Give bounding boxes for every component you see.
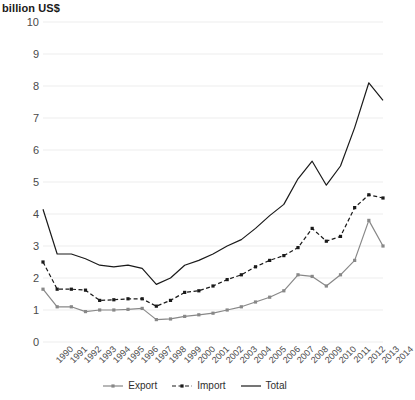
data-point-marker [169, 317, 172, 320]
data-point-marker [197, 289, 200, 292]
data-point-marker [155, 318, 158, 321]
data-point-marker [282, 254, 285, 257]
line-marker-gray-icon [102, 381, 124, 391]
line-dashed-black-icon [171, 381, 193, 391]
data-point-marker [296, 246, 299, 249]
y-axis-title: billion US$ [2, 2, 60, 14]
series-line-total [43, 83, 383, 285]
data-point-marker [197, 313, 200, 316]
y-tick-label: 5 [5, 176, 39, 188]
data-point-marker [126, 297, 129, 300]
x-axis-tick-labels: 1990199119921993199419951996199719981999… [43, 344, 383, 384]
y-tick-label: 1 [5, 304, 39, 316]
data-point-marker [367, 219, 370, 222]
data-point-marker [339, 273, 342, 276]
data-point-marker [226, 278, 229, 281]
plot-area [43, 22, 383, 342]
data-point-marker [254, 265, 257, 268]
data-point-marker [84, 289, 87, 292]
y-tick-label: 3 [5, 240, 39, 252]
data-point-marker [296, 273, 299, 276]
data-point-marker [98, 308, 101, 311]
data-point-marker [311, 275, 314, 278]
data-point-marker [183, 315, 186, 318]
data-point-marker [70, 305, 73, 308]
data-point-marker [367, 193, 370, 196]
data-point-marker [381, 196, 384, 199]
data-point-marker [98, 299, 101, 302]
y-tick-label: 6 [5, 144, 39, 156]
data-point-marker [70, 288, 73, 291]
data-point-marker [339, 235, 342, 238]
legend-label: Import [197, 381, 225, 391]
legend-item-total[interactable]: Total [240, 381, 287, 391]
y-tick-label: 9 [5, 48, 39, 60]
data-point-marker [112, 298, 115, 301]
data-point-marker [240, 273, 243, 276]
y-axis-tick-labels: 012345678910 [0, 22, 39, 342]
data-point-marker [254, 300, 257, 303]
data-point-marker [353, 259, 356, 262]
data-point-marker [155, 305, 158, 308]
y-tick-label: 8 [5, 80, 39, 92]
y-tick-label: 10 [5, 16, 39, 28]
data-point-marker [56, 288, 59, 291]
legend-item-export[interactable]: Export [102, 381, 157, 391]
data-point-marker [282, 289, 285, 292]
series-line-export [43, 220, 383, 319]
data-point-marker [169, 299, 172, 302]
chart-legend: ExportImportTotal [0, 381, 389, 391]
y-tick-label: 2 [5, 272, 39, 284]
data-point-marker [141, 297, 144, 300]
data-point-marker [41, 260, 44, 263]
y-tick-label: 7 [5, 112, 39, 124]
legend-label: Export [128, 381, 157, 391]
y-tick-label: 0 [5, 336, 39, 348]
legend-item-import[interactable]: Import [171, 381, 225, 391]
y-tick-label: 4 [5, 208, 39, 220]
data-point-marker [268, 259, 271, 262]
series-line-import [43, 195, 383, 306]
data-point-marker [325, 240, 328, 243]
data-point-marker [353, 206, 356, 209]
data-point-marker [226, 308, 229, 311]
data-point-marker [311, 227, 314, 230]
line-solid-black-icon [240, 381, 262, 391]
data-point-marker [211, 312, 214, 315]
data-point-marker [211, 284, 214, 287]
data-point-marker [112, 308, 115, 311]
legend-label: Total [266, 381, 287, 391]
data-point-marker [41, 288, 44, 291]
data-point-marker [84, 310, 87, 313]
data-point-marker [56, 305, 59, 308]
data-point-marker [183, 291, 186, 294]
data-point-marker [126, 308, 129, 311]
data-point-marker [381, 244, 384, 247]
plot-canvas [43, 22, 383, 342]
data-point-marker [141, 307, 144, 310]
data-point-marker [240, 305, 243, 308]
data-point-marker [325, 284, 328, 287]
data-point-marker [268, 296, 271, 299]
